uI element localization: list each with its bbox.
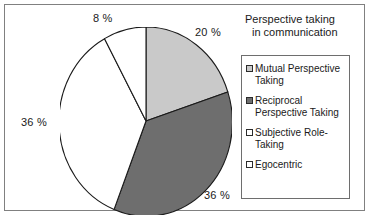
- pie-svg: [60, 27, 232, 215]
- legend-swatch-icon-subjective: [246, 129, 253, 136]
- legend-swatch-icon-egocentric: [246, 161, 253, 168]
- legend-item-mutual[interactable]: Mutual Perspective Taking: [246, 63, 346, 86]
- slice-label-egocentric: 8 %: [93, 12, 113, 24]
- legend-label-subjective: Subjective Role-Taking: [255, 127, 346, 150]
- legend-label-egocentric: Egocentric: [255, 159, 346, 171]
- chart-title-line-1: Perspective taking: [245, 13, 369, 26]
- chart-title: Perspective taking in communication: [245, 13, 369, 39]
- chart-title-line-2: in communication: [245, 26, 369, 39]
- slice-label-mutual: 20 %: [195, 26, 221, 38]
- pie-plot-area: [60, 27, 232, 215]
- chart-frame: 8 % 20 % 36 % 36 % Perspective taking in…: [4, 4, 365, 211]
- legend-label-mutual: Mutual Perspective Taking: [255, 63, 346, 86]
- pie-chart-figure: 8 % 20 % 36 % 36 % Perspective taking in…: [0, 0, 371, 223]
- legend-box: Mutual Perspective Taking Reciprocal Per…: [241, 55, 350, 199]
- slice-label-subjective: 36 %: [21, 116, 47, 128]
- legend-swatch-icon-reciprocal: [246, 97, 253, 104]
- legend-item-subjective[interactable]: Subjective Role-Taking: [246, 127, 346, 150]
- legend-item-egocentric[interactable]: Egocentric: [246, 159, 346, 171]
- slice-label-reciprocal: 36 %: [204, 189, 230, 201]
- legend-label-reciprocal: Reciprocal Perspective Taking: [255, 95, 346, 118]
- legend-swatch-icon-mutual: [246, 65, 253, 72]
- legend-item-reciprocal[interactable]: Reciprocal Perspective Taking: [246, 95, 346, 118]
- legend-list: Mutual Perspective Taking Reciprocal Per…: [242, 56, 349, 171]
